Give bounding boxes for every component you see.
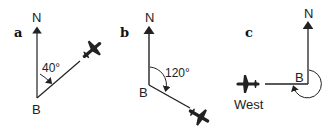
airplane-icon [79, 37, 106, 64]
panel-c: c N B West [234, 6, 321, 112]
airplane-icon [238, 75, 258, 93]
panel-b: b N 120° B [120, 10, 212, 129]
north-label-b: N [145, 10, 154, 25]
panel-a: a N 40° B [14, 10, 105, 117]
bearing-line-b [149, 85, 190, 108]
panel-label-b: b [120, 25, 129, 40]
panel-label-a: a [14, 25, 23, 40]
north-label-c: N [304, 6, 313, 21]
point-label-a: B [32, 102, 41, 117]
airplane-icon [186, 103, 212, 129]
north-label-a: N [32, 10, 41, 25]
point-label-b: B [139, 85, 148, 100]
bearing-diagram: a N 40° B b N 120° B c N B West [0, 0, 334, 139]
angle-arc-a [40, 74, 50, 82]
direction-label-c: West [234, 97, 264, 112]
angle-arc-b [150, 67, 166, 89]
panel-label-c: c [245, 25, 253, 40]
point-label-c: B [295, 70, 304, 85]
angle-label-a: 40° [42, 61, 60, 75]
angle-label-b: 120° [165, 66, 190, 80]
